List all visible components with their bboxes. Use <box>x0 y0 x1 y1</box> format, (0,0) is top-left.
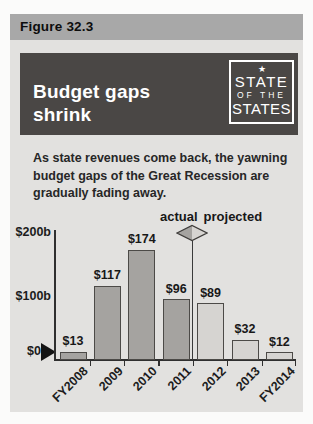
bar-2009 <box>94 286 121 360</box>
bar-2010 <box>128 250 155 360</box>
bar-fy2008 <box>60 352 87 360</box>
bar-chart: $200b $100b $0 actual projected $13FY200… <box>10 40 303 412</box>
legend-actual: actual <box>160 209 198 224</box>
x-axis-label: FY2014 <box>256 364 297 405</box>
axis-tick <box>295 361 296 366</box>
bar-fy2014 <box>266 352 293 360</box>
figure-number: Figure 32.3 <box>20 19 93 34</box>
axis-tick <box>227 361 228 366</box>
x-axis-label: 2012 <box>199 364 229 394</box>
axis-tick <box>90 361 91 366</box>
x-axis-label: 2013 <box>233 364 263 394</box>
x-axis-label: 2010 <box>130 364 160 394</box>
legend-projected: projected <box>204 209 263 224</box>
y-tick-label-100b: $100b <box>10 289 51 303</box>
bar-2011 <box>163 299 190 360</box>
y-tick-label-0: $0 <box>10 344 41 358</box>
bar-value-label: $174 <box>112 232 172 246</box>
x-axis-label: 2011 <box>165 364 194 393</box>
figure-number-bar: Figure 32.3 <box>10 14 303 40</box>
axis-tick <box>124 361 125 366</box>
figure-panel: Budget gaps shrink ★ STATE OF THE STATES… <box>10 40 303 412</box>
actual-projected-divider-line <box>192 241 193 360</box>
axis-tick <box>193 361 194 366</box>
figure-page: Figure 32.3 Budget gaps shrink ★ STATE O… <box>0 0 313 424</box>
x-axis-label: 2009 <box>96 364 126 394</box>
bar-value-label: $89 <box>181 286 241 300</box>
y-tick-label-200b: $200b <box>10 225 51 239</box>
axis-tick <box>158 361 159 366</box>
actual-projected-diamond-icon <box>176 224 208 242</box>
axis-tick <box>262 361 263 366</box>
divider-legend: actual projected <box>160 209 262 224</box>
x-axis-label: FY2008 <box>50 364 91 405</box>
bar-value-label: $12 <box>249 335 309 349</box>
